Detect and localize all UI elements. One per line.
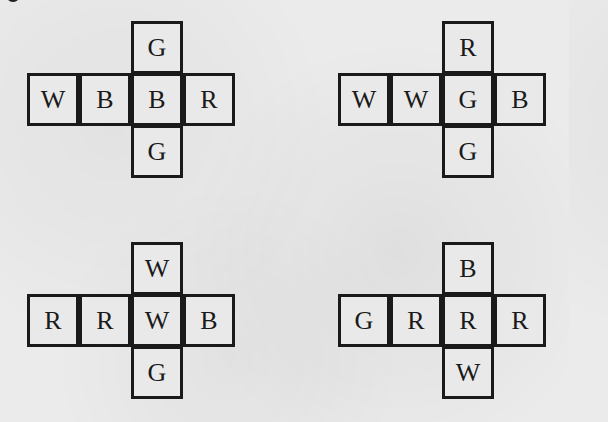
corner-mark <box>8 0 18 2</box>
net-face-row-1: W <box>338 73 390 126</box>
net-face-row-1: G <box>338 294 390 347</box>
net-face-row-2: R <box>390 294 442 347</box>
net-face-row-2: B <box>79 73 131 126</box>
net-face-row-3: G <box>442 73 494 126</box>
cube-net-bottom-right: B G R R R W <box>338 242 608 407</box>
net-face-row-3: W <box>131 294 183 347</box>
cube-net-top-left: G W B B R G <box>27 21 297 186</box>
net-face-bottom: G <box>131 346 183 399</box>
net-face-row-3: B <box>131 73 183 126</box>
net-face-top: R <box>442 21 494 74</box>
net-face-top: W <box>131 242 183 295</box>
cube-net-top-right: R W W G B G <box>338 21 608 186</box>
net-face-row-4: R <box>494 294 546 347</box>
cube-net-bottom-left: W R R W B G <box>27 242 297 407</box>
net-face-row-4: R <box>183 73 235 126</box>
net-face-row-1: W <box>27 73 79 126</box>
net-face-row-4: B <box>183 294 235 347</box>
net-face-row-4: B <box>494 73 546 126</box>
net-face-bottom: G <box>442 125 494 178</box>
net-face-bottom: G <box>131 125 183 178</box>
net-face-bottom: W <box>442 346 494 399</box>
net-face-top: B <box>442 242 494 295</box>
net-face-row-1: R <box>27 294 79 347</box>
net-face-row-2: W <box>390 73 442 126</box>
net-face-row-2: R <box>79 294 131 347</box>
net-face-row-3: R <box>442 294 494 347</box>
net-face-top: G <box>131 21 183 74</box>
